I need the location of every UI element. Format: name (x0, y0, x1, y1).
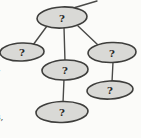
diagram-canvas: ? ? ? ? ? ? (0, 0, 141, 138)
node-right-grandchild-label: ? (107, 85, 113, 96)
node-right-child: ? (88, 42, 137, 64)
node-root-label: ? (59, 13, 65, 24)
margin-text-fragment: ” (0, 70, 1, 79)
node-middle-child: ? (42, 59, 89, 81)
edge-root-right-child (78, 26, 98, 45)
margin-text-fragment: s, (0, 113, 3, 122)
diagram-stage: ? ? ? ? ? ? ” , s, (0, 0, 141, 138)
node-middle-child-label: ? (62, 65, 68, 76)
node-middle-grandchild-label: ? (59, 107, 65, 118)
node-right-child-label: ? (109, 48, 115, 59)
node-left-child: ? (0, 42, 44, 62)
edge-root-left-child (33, 26, 47, 45)
node-left-child-label: ? (19, 47, 25, 58)
edge-middle-child-grandchild (63, 79, 64, 103)
node-root: ? (36, 6, 87, 30)
node-right-grandchild: ? (87, 80, 134, 100)
node-middle-grandchild: ? (36, 101, 89, 124)
edge-root-middle-child (64, 27, 65, 62)
edge-right-child-grandchild (112, 62, 113, 82)
